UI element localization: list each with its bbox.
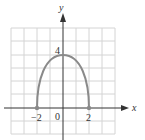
endpoint-pos2 [87,106,91,110]
endpoint-neg2 [35,106,39,110]
chart-canvas: x y 0 −2 2 4 [0,0,145,140]
origin-label: 0 [55,111,60,122]
y-axis-arrow-icon [60,13,66,22]
tick-label-neg2: −2 [31,112,42,123]
tick-label-pos2: 2 [86,112,91,123]
x-axis [4,105,129,111]
x-axis-arrow-icon [121,105,129,111]
x-axis-label: x [131,102,137,113]
y-axis-label: y [58,2,64,13]
tick-label-y4: 4 [55,45,60,56]
